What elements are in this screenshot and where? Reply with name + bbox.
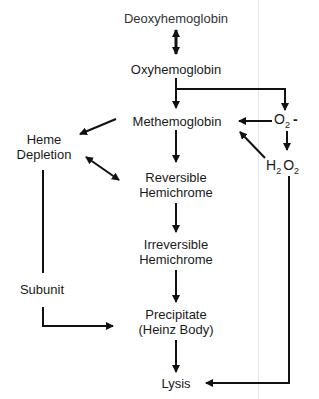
node-lysis: Lysis <box>146 376 206 391</box>
arrow-met-heme <box>80 119 116 134</box>
node-subunit: Subunit <box>12 282 72 297</box>
node-superoxide: O2- <box>274 112 314 133</box>
node-methemoglobin: Methemoglobin <box>118 114 236 129</box>
node-heme-depletion: Heme Depletion <box>10 132 78 162</box>
node-reversible-hemichrome: Reversible Hemichrome <box>126 170 226 200</box>
arrow-subunit-precipitate <box>43 307 113 326</box>
arrow-heme-reversible <box>86 157 119 180</box>
arrow-h2o2-lysis <box>206 176 289 383</box>
arrow-oxy-superoxide <box>176 89 285 110</box>
node-precipitate-heinz-body: Precipitate (Heinz Body) <box>126 307 226 337</box>
node-deoxyhemoglobin: Deoxyhemoglobin <box>110 11 242 26</box>
arrow-h2o2-met <box>240 132 265 158</box>
node-oxyhemoglobin: Oxyhemoglobin <box>120 62 232 77</box>
node-hydrogen-peroxide: H2O2 <box>266 158 318 179</box>
node-irreversible-hemichrome: Irreversible Hemichrome <box>126 237 226 267</box>
